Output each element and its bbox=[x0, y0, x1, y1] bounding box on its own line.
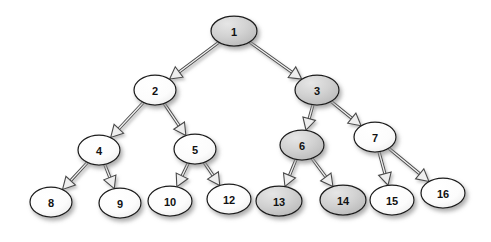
tree-edge bbox=[164, 104, 186, 136]
node-shape-highlighted[interactable] bbox=[295, 75, 339, 105]
tree-diagram-svg: 123456789101213141516 bbox=[0, 0, 491, 242]
tree-node-2[interactable]: 2 bbox=[134, 75, 176, 105]
tree-node-6[interactable]: 6 bbox=[280, 130, 324, 160]
tree-node-1[interactable]: 1 bbox=[211, 16, 257, 46]
tree-edge bbox=[303, 105, 316, 131]
node-shape-plain[interactable] bbox=[421, 178, 465, 208]
node-shape-highlighted[interactable] bbox=[320, 185, 366, 215]
tree-edge bbox=[331, 101, 361, 125]
tree-node-13[interactable]: 13 bbox=[256, 186, 302, 216]
tree-edge bbox=[389, 148, 429, 181]
tree-node-12[interactable]: 12 bbox=[207, 184, 251, 214]
node-shape-highlighted[interactable] bbox=[256, 186, 302, 216]
node-shape-plain[interactable] bbox=[99, 188, 141, 218]
edges-layer bbox=[63, 42, 429, 189]
tree-diagram-canvas: 123456789101213141516 bbox=[0, 0, 491, 242]
tree-node-7[interactable]: 7 bbox=[354, 122, 396, 152]
nodes-layer: 123456789101213141516 bbox=[30, 16, 465, 218]
tree-node-14[interactable]: 14 bbox=[320, 185, 366, 215]
node-shape-plain[interactable] bbox=[174, 134, 216, 164]
tree-edge bbox=[63, 163, 88, 190]
tree-edge bbox=[250, 42, 302, 79]
tree-node-15[interactable]: 15 bbox=[370, 185, 414, 215]
tree-node-10[interactable]: 10 bbox=[148, 186, 192, 216]
tree-edge bbox=[379, 152, 392, 186]
node-shape-plain[interactable] bbox=[30, 187, 72, 217]
tree-edge bbox=[176, 163, 188, 187]
tree-edge bbox=[312, 158, 333, 186]
node-shape-plain[interactable] bbox=[370, 185, 414, 215]
tree-node-9[interactable]: 9 bbox=[99, 188, 141, 218]
node-shape-plain[interactable] bbox=[134, 75, 176, 105]
node-shape-plain[interactable] bbox=[78, 135, 120, 165]
tree-edge bbox=[111, 102, 144, 137]
tree-node-5[interactable]: 5 bbox=[174, 134, 216, 164]
tree-edge bbox=[284, 159, 297, 186]
tree-edge bbox=[104, 164, 116, 188]
tree-node-3[interactable]: 3 bbox=[295, 75, 339, 105]
node-shape-plain[interactable] bbox=[148, 186, 192, 216]
tree-node-4[interactable]: 4 bbox=[78, 135, 120, 165]
tree-node-16[interactable]: 16 bbox=[421, 178, 465, 208]
node-shape-highlighted[interactable] bbox=[280, 130, 324, 160]
node-shape-plain[interactable] bbox=[354, 122, 396, 152]
tree-edge bbox=[204, 162, 220, 185]
node-shape-highlighted[interactable] bbox=[211, 16, 257, 46]
node-shape-plain[interactable] bbox=[207, 184, 251, 214]
tree-node-8[interactable]: 8 bbox=[30, 187, 72, 217]
tree-edge bbox=[170, 42, 219, 79]
